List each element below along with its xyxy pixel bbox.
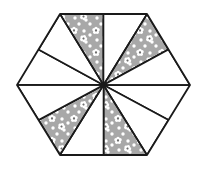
- quilt-figure: [0, 0, 206, 169]
- quilt-pattern-svg: [0, 0, 206, 169]
